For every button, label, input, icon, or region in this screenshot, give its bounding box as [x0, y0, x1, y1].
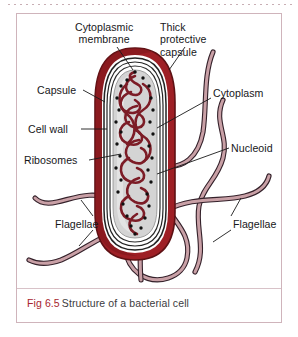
bacterial-cell-diagram: Cytoplasmic membrane Thick protective ca…	[17, 14, 283, 288]
leader-flagellae-right-lower	[213, 230, 231, 242]
label-nucleoid: Nucleoid	[231, 142, 273, 154]
figure-caption-text: Structure of a bacterial cell	[62, 297, 189, 309]
label-flagellae-right: Flagellae	[233, 218, 276, 230]
label-capsule: Capsule	[37, 84, 76, 96]
figure-frame: Cytoplasmic membrane Thick protective ca…	[16, 13, 282, 323]
label-flagellae-left: Flagellae	[55, 218, 98, 230]
label-ribosomes: Ribosomes	[24, 154, 77, 166]
figure-caption: Fig 6.5Structure of a bacterial cell	[27, 297, 189, 310]
page-dotted-rule	[6, 3, 292, 6]
figure-root: Cytoplasmic membrane Thick protective ca…	[0, 0, 298, 337]
label-cell-wall: Cell wall	[28, 123, 68, 135]
figure-number: Fig 6.5	[27, 297, 60, 309]
caption-divider	[17, 288, 281, 289]
cell-body	[95, 48, 175, 260]
label-cytoplasmic-membrane: Cytoplasmic membrane	[75, 21, 133, 46]
label-cytoplasm: Cytoplasm	[213, 87, 264, 99]
label-thick-protective-capsule: Thick protective capsule	[160, 21, 206, 58]
leader-flagellae-left-upper	[81, 200, 93, 216]
